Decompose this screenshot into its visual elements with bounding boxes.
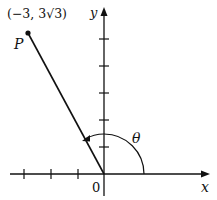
angle-label: θ: [132, 131, 140, 145]
y-axis-label: y: [90, 6, 97, 19]
x-axis-arrow-icon: [201, 171, 210, 178]
origin-label: 0: [92, 181, 100, 194]
point-p: [25, 30, 30, 35]
coordinate-diagram: [0, 0, 217, 200]
point-coordinates-label: (−3, 3√3): [7, 8, 67, 21]
point-label: P: [14, 37, 23, 51]
y-axis-arrow-icon: [101, 7, 108, 16]
segment-op: [28, 33, 104, 174]
x-axis-label: x: [201, 180, 209, 194]
